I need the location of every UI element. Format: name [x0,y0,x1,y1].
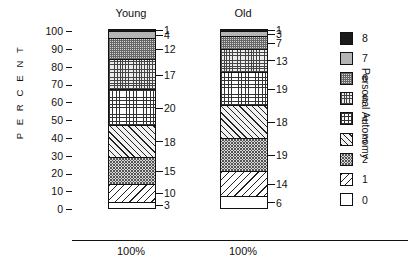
bar-segment-value: 4 [163,29,170,41]
bar-segment-value: 18 [163,136,176,148]
bar-segment-label: 14 [267,178,288,190]
stacked-bar-chart: P E R C E N T 1009080706050403020100 You… [0,0,416,259]
leader-line [267,43,275,44]
bar-segment: 19 [221,139,267,173]
legend-swatch [340,193,353,206]
legend-item-0: 0 [340,190,384,210]
bar-segment-label: 7 [267,37,282,49]
bar-segment-label: 20 [155,102,176,114]
leader-line [267,184,275,185]
bar-segment-label: 18 [155,136,176,148]
y-axis-tick-80: 80 [51,61,72,73]
y-axis-tick-20: 20 [51,167,72,179]
bar-segment-value: 13 [275,55,288,67]
bar-segment: 7 [221,37,267,49]
bar-segment-label: 10 [155,187,176,199]
y-axis-tick-label: 80 [51,61,66,73]
legend-item-7: 7 [340,48,384,68]
y-axis-tick-label: 0 [57,203,66,215]
y-axis-tick-mark [66,209,72,210]
bar-segment: 14 [221,172,267,197]
legend-item-label: 0 [353,194,368,206]
leader-line [155,108,163,109]
bar-segment-label: 17 [155,69,176,81]
y-axis-tick-label: 60 [51,96,66,108]
bar-segment: 6 [221,197,267,208]
bar-segment-value: 7 [275,37,282,49]
bar-segment-label: 19 [267,83,288,95]
leader-line [267,60,275,61]
bar-segment: 20 [109,90,155,126]
bar-segment-label: 15 [155,165,176,177]
legend-swatch [340,32,353,45]
bar-segment-value: 6 [275,197,282,209]
bar-segment-label: 13 [267,55,288,67]
x-axis-label-old: 100% [205,245,281,257]
bar-old: 13713191819146 [220,29,268,209]
bar-segment: 18 [109,126,155,158]
legend-swatch [340,153,353,166]
y-axis-tick-label: 100 [45,25,66,37]
bar-segment: 17 [109,60,155,90]
leader-line [267,34,275,35]
bar-segment-label: 4 [155,29,170,41]
leader-line [155,205,163,206]
leader-line [267,202,275,203]
leader-line [155,193,163,194]
y-axis-tick-60: 60 [51,96,72,108]
bar-title-young: Young [108,7,154,19]
legend-swatch [340,52,353,65]
bar-segment-value: 3 [163,199,170,211]
leader-line [267,89,275,90]
leader-line [155,141,163,142]
y-axis-tick-40: 40 [51,132,72,144]
legend-item-8: 8 [340,28,384,48]
bar-segment-label: 6 [267,197,282,209]
bar-segment: 13 [221,50,267,73]
bar-segment: 3 [109,203,155,208]
bar-segment-value: 14 [275,178,288,190]
y-axis-tick-90: 90 [51,43,72,55]
bar-segment: 10 [109,185,155,203]
leader-line [155,171,163,172]
bar-segment-value: 20 [163,102,176,114]
bar-segment: 12 [109,39,155,60]
y-axis-tick-label: 40 [51,132,66,144]
legend-title: Personal Autonomy [358,68,372,188]
y-axis-tick-label: 70 [51,78,66,90]
legend-swatch [340,72,353,85]
bar-segment: 19 [221,73,267,107]
leader-line [267,155,275,156]
y-axis-tick-label: 30 [51,150,66,162]
y-axis-tick-label: 20 [51,167,66,179]
legend-swatch [340,92,353,105]
bar-segment-label: 3 [155,199,170,211]
bar-segment-value: 18 [275,116,288,128]
y-axis-tick-label: 50 [51,114,66,126]
y-axis: 1009080706050403020100 [28,25,72,215]
legend-item-label: 8 [353,32,368,44]
bar-segment-value: 15 [163,165,176,177]
leader-line [155,49,163,50]
plot-area: Young Old 141217201815103 13713191819146… [72,31,332,209]
bar-segment-value: 19 [275,83,288,95]
y-axis-tick-10: 10 [51,185,72,197]
bar-segment-value: 17 [163,69,176,81]
bar-segment-value: 19 [275,149,288,161]
bar-segment: 15 [109,158,155,185]
bar-young: 141217201815103 [108,29,156,209]
bar-segment-label: 19 [267,149,288,161]
leader-line [155,35,163,36]
y-axis-tick-70: 70 [51,78,72,90]
y-axis-tick-30: 30 [51,150,72,162]
x-axis-label-young: 100% [93,245,169,257]
y-axis-tick-0: 0 [57,203,72,215]
y-axis-tick-100: 100 [45,25,72,37]
legend-swatch [340,112,353,125]
bar-segment: 18 [221,106,267,138]
y-axis-tick-50: 50 [51,114,72,126]
bar-segment-value: 10 [163,187,176,199]
y-axis-tick-label: 10 [51,185,66,197]
legend-item-label: 7 [353,52,368,64]
leader-line [267,122,275,123]
